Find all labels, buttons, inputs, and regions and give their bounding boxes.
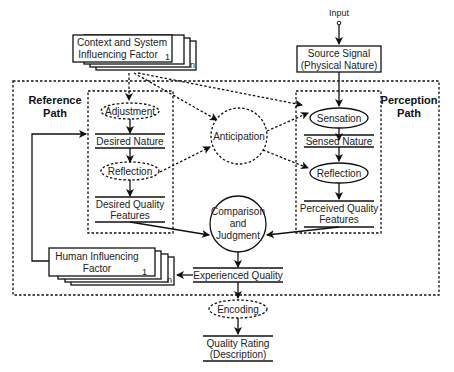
svg-text:Features: Features xyxy=(110,210,149,221)
sensation-node: Sensation xyxy=(310,108,368,128)
desired-nature-store: Desired Nature xyxy=(95,134,165,148)
reference-reflection-node: Reflection xyxy=(101,162,159,180)
svg-text:n: n xyxy=(167,275,172,285)
source-signal-box: Source Signal (Physical Nature) xyxy=(297,46,381,72)
quality-rating-store: Quality Rating (Description) xyxy=(203,336,273,361)
svg-text:Reference: Reference xyxy=(28,94,81,106)
comparison-judgment-node: Comparison and Judgment xyxy=(210,196,266,252)
svg-text:Sensation: Sensation xyxy=(317,113,361,124)
perceived-quality-features-store: Perceived Quality Features xyxy=(300,201,378,227)
context-system-factor-stack: Context and System Influencing Factor 1 … xyxy=(73,35,196,70)
desired-quality-features-store: Desired Quality Features xyxy=(95,197,165,222)
perception-reflection-node: Reflection xyxy=(310,163,368,183)
svg-text:Reflection: Reflection xyxy=(317,168,361,179)
perception-path-label: Perception Path xyxy=(381,94,438,119)
svg-text:Judgment: Judgment xyxy=(216,230,260,241)
svg-text:Human Influencing: Human Influencing xyxy=(55,251,138,262)
svg-text:Desired Quality: Desired Quality xyxy=(96,199,164,210)
svg-text:Features: Features xyxy=(319,214,358,225)
svg-text:n: n xyxy=(190,60,195,70)
svg-text:Perception: Perception xyxy=(381,94,438,106)
sensed-nature-store: Sensed Nature xyxy=(304,135,374,147)
svg-text:and: and xyxy=(230,218,247,229)
svg-text:Desired Nature: Desired Nature xyxy=(96,136,164,147)
encoding-node: Encoding xyxy=(209,300,267,318)
reference-path-label: Reference Path xyxy=(28,94,81,119)
quality-formation-diagram: Input Source Signal (Physical Nature) Co… xyxy=(0,0,454,372)
svg-text:Context and System: Context and System xyxy=(77,37,167,48)
svg-text:Reflection: Reflection xyxy=(108,166,152,177)
svg-text:(Description): (Description) xyxy=(210,349,267,360)
svg-text:Source Signal: Source Signal xyxy=(308,48,370,59)
svg-text:Path: Path xyxy=(43,107,67,119)
svg-text:Adjustment: Adjustment xyxy=(105,106,155,117)
svg-text:Encoding: Encoding xyxy=(217,304,259,315)
svg-text:(Physical Nature): (Physical Nature) xyxy=(301,60,378,71)
svg-text:Comparison: Comparison xyxy=(211,206,265,217)
anticipation-node: Anticipation xyxy=(211,108,267,164)
svg-text:1: 1 xyxy=(142,267,147,277)
svg-text:1: 1 xyxy=(165,52,170,62)
experienced-quality-store: Experienced Quality xyxy=(193,268,283,282)
input-terminal xyxy=(337,21,341,25)
svg-text:Factor: Factor xyxy=(83,263,112,274)
human-factor-stack: Human Influencing Factor 1 n xyxy=(49,248,174,285)
svg-text:Path: Path xyxy=(397,107,421,119)
adjustment-node: Adjustment xyxy=(101,103,159,119)
svg-text:Experienced Quality: Experienced Quality xyxy=(193,270,283,281)
svg-text:Anticipation: Anticipation xyxy=(213,131,265,142)
svg-text:Perceived Quality: Perceived Quality xyxy=(300,203,378,214)
svg-text:Sensed Nature: Sensed Nature xyxy=(306,136,373,147)
input-label: Input xyxy=(329,8,350,18)
svg-text:Quality Rating: Quality Rating xyxy=(207,338,270,349)
svg-text:Influencing Factor: Influencing Factor xyxy=(78,49,158,60)
